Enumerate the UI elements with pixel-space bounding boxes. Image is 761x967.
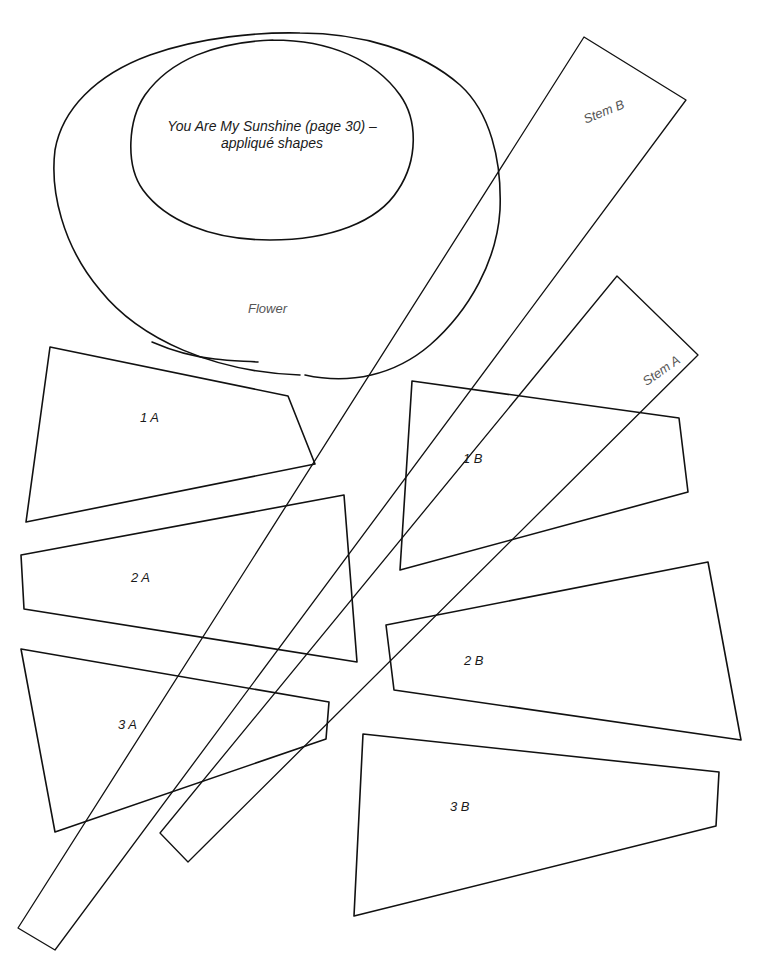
stem-b-outline — [18, 37, 686, 950]
flower-label: Flower — [248, 301, 287, 316]
piece-2a-outline — [21, 495, 357, 662]
page-title-line-2: appliqué shapes — [167, 135, 377, 152]
piece-2a-label: 2 A — [131, 570, 150, 585]
piece-1b-label: 1 B — [463, 451, 483, 466]
piece-3a-outline — [21, 649, 329, 832]
piece-3a-label: 3 A — [118, 717, 137, 732]
page-title: You Are My Sunshine (page 30) – appliqué… — [167, 118, 377, 152]
page-title-line-1: You Are My Sunshine (page 30) – — [167, 118, 377, 135]
piece-1a-label: 1 A — [140, 410, 159, 425]
piece-1b-outline — [400, 381, 688, 570]
piece-2b-outline — [386, 562, 741, 740]
piece-2b-label: 2 B — [464, 653, 484, 668]
applique-template-canvas — [0, 0, 761, 967]
piece-3b-outline — [354, 734, 719, 916]
stem-a-outline — [160, 276, 698, 862]
piece-3b-label: 3 B — [450, 799, 470, 814]
flower-outer-outline — [54, 33, 500, 379]
